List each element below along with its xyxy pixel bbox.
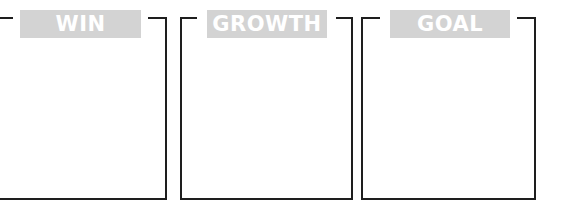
panel-title-goal: GOAL — [390, 10, 510, 38]
frame-right-edge — [165, 17, 167, 200]
panel-title-win: WIN — [20, 10, 141, 38]
frame-top-left-segment — [0, 17, 13, 19]
frame-top-left-segment — [361, 17, 380, 19]
frame-left-edge — [361, 17, 363, 200]
frame-bottom-edge — [180, 198, 353, 200]
frame-bottom-edge — [0, 198, 167, 200]
frame-top-left-segment — [180, 17, 197, 19]
panel-content-win[interactable] — [4, 42, 160, 192]
frame-bottom-edge — [361, 198, 536, 200]
frame-right-edge — [534, 17, 536, 200]
frame-right-edge — [351, 17, 353, 200]
panel-content-goal[interactable] — [367, 42, 529, 192]
panel-content-growth[interactable] — [186, 42, 346, 192]
frame-left-edge — [180, 17, 182, 200]
panel-title-growth: GROWTH — [207, 10, 327, 38]
